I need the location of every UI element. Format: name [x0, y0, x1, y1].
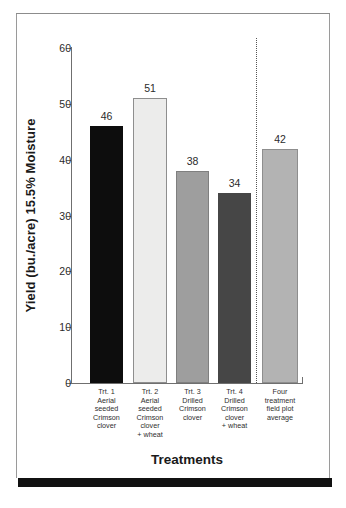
- bar-value-label: 42: [252, 134, 308, 145]
- y-axis-line: [71, 47, 72, 384]
- bar-value-label: 51: [123, 83, 177, 94]
- y-axis-tick-label: 60: [43, 43, 71, 53]
- bar-chart: Yield (bu./acre) 15.5% Moisture 01020304…: [0, 0, 346, 508]
- x-axis-category-label: Four treatment field plot average: [253, 388, 307, 422]
- figure-footer-bar: [18, 478, 332, 487]
- y-axis-tick-label: 0: [43, 378, 71, 388]
- bar: [133, 98, 167, 383]
- y-axis-tick-label: 20: [43, 266, 71, 276]
- y-axis-tick-label-wrap: 30: [36, 211, 71, 221]
- x-axis-end-tick: [302, 377, 303, 384]
- y-axis-tick-label-wrap: 60: [36, 43, 71, 53]
- bar: [176, 171, 209, 383]
- y-axis-tick-label: 40: [43, 155, 71, 165]
- x-axis-line: [71, 383, 303, 384]
- bar-value-label: 38: [166, 156, 219, 167]
- bar-value-label: 46: [80, 111, 133, 122]
- y-axis-tick-label-wrap: 0: [36, 378, 71, 388]
- y-axis-tick-label-wrap: 20: [36, 266, 71, 276]
- bar: [218, 193, 251, 383]
- x-axis-title: Treatments: [71, 452, 303, 467]
- bar-value-label: 34: [208, 178, 261, 189]
- y-axis-tick-label: 30: [43, 211, 71, 221]
- y-axis-tick-label-wrap: 50: [36, 99, 71, 109]
- y-axis-tick-label-wrap: 40: [36, 155, 71, 165]
- bar: [262, 149, 298, 384]
- y-axis-tick-label: 50: [43, 99, 71, 109]
- group-separator-dotted-line: [256, 38, 257, 383]
- y-axis-tick-label-wrap: 10: [36, 322, 71, 332]
- bar: [90, 126, 123, 383]
- y-axis-tick-label: 10: [43, 322, 71, 332]
